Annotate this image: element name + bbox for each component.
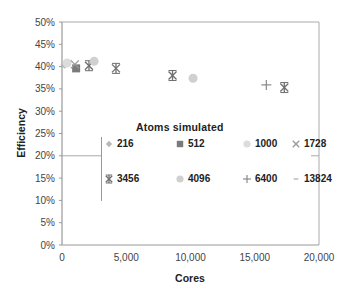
legend-label: 512	[188, 137, 205, 151]
plus-marker-icon	[261, 80, 271, 90]
legend-label: 1728	[304, 137, 326, 151]
y-tick-label: 10%	[35, 195, 55, 206]
diamond-marker-icon	[106, 141, 112, 147]
y-tick-label: 15%	[35, 173, 55, 184]
x-marker-icon	[293, 141, 299, 147]
circle-marker-icon	[243, 140, 250, 147]
circle-marker-icon	[63, 59, 72, 68]
x-tick-label: 10,000	[175, 252, 206, 263]
star-marker-icon	[106, 175, 112, 183]
square-marker-icon	[177, 141, 183, 147]
y-tick-label: 50%	[35, 17, 55, 28]
x-tick-label: 20,000	[304, 252, 335, 263]
y-tick-label: 0%	[41, 240, 56, 251]
y-tick-label: 35%	[35, 83, 55, 94]
y-axis-title: Efficiency	[15, 108, 27, 158]
legend-label: 3456	[117, 172, 139, 186]
legend-label: 1000	[255, 137, 277, 151]
star-marker-icon	[112, 63, 120, 73]
star-marker-icon	[169, 71, 177, 81]
circle-marker-icon	[90, 57, 99, 66]
y-tick-label: 20%	[35, 150, 55, 161]
legend-label: 4096	[188, 172, 210, 186]
legend-title: Atoms simulated	[136, 121, 224, 133]
x-tick-label: 0	[59, 252, 65, 263]
circle-marker-icon	[189, 74, 198, 83]
star-marker-icon	[280, 83, 288, 93]
legend-border	[101, 137, 102, 201]
y-tick-label: 45%	[35, 39, 55, 50]
legend-label: 216	[117, 137, 134, 151]
plus-marker-icon	[243, 175, 251, 183]
x-tick-label: 5,000	[114, 252, 139, 263]
legend-label: 6400	[255, 172, 277, 186]
circle-marker-icon	[176, 175, 183, 182]
x-tick-label: 15,000	[239, 252, 270, 263]
data-points	[61, 57, 289, 93]
y-tick-label: 5%	[41, 217, 56, 228]
y-tick-label: 25%	[35, 128, 55, 139]
legend: Atoms simulated 216512100017283456409664…	[101, 118, 311, 202]
legend-label: 13824	[304, 172, 332, 186]
y-tick-label: 30%	[35, 106, 55, 117]
x-axis-title: Cores	[175, 272, 205, 284]
y-tick-label: 40%	[35, 61, 55, 72]
